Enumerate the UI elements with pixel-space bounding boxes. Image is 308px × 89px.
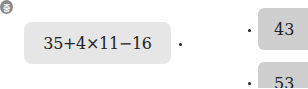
answer-connector-dot-2[interactable] — [248, 82, 251, 85]
expression-text: 35+4×11−16 — [43, 34, 151, 53]
answer-connector-dot-1[interactable] — [248, 29, 251, 32]
answer-text-1: 43 — [274, 20, 294, 39]
answer-text-2: 53 — [274, 74, 294, 89]
difficulty-badge: 중 — [0, 0, 13, 14]
expression-card[interactable]: 35+4×11−16 — [24, 22, 171, 64]
answer-card-2[interactable]: 53 — [258, 62, 308, 88]
expression-connector-dot[interactable] — [179, 43, 182, 46]
answer-card-1[interactable]: 43 — [258, 8, 308, 50]
